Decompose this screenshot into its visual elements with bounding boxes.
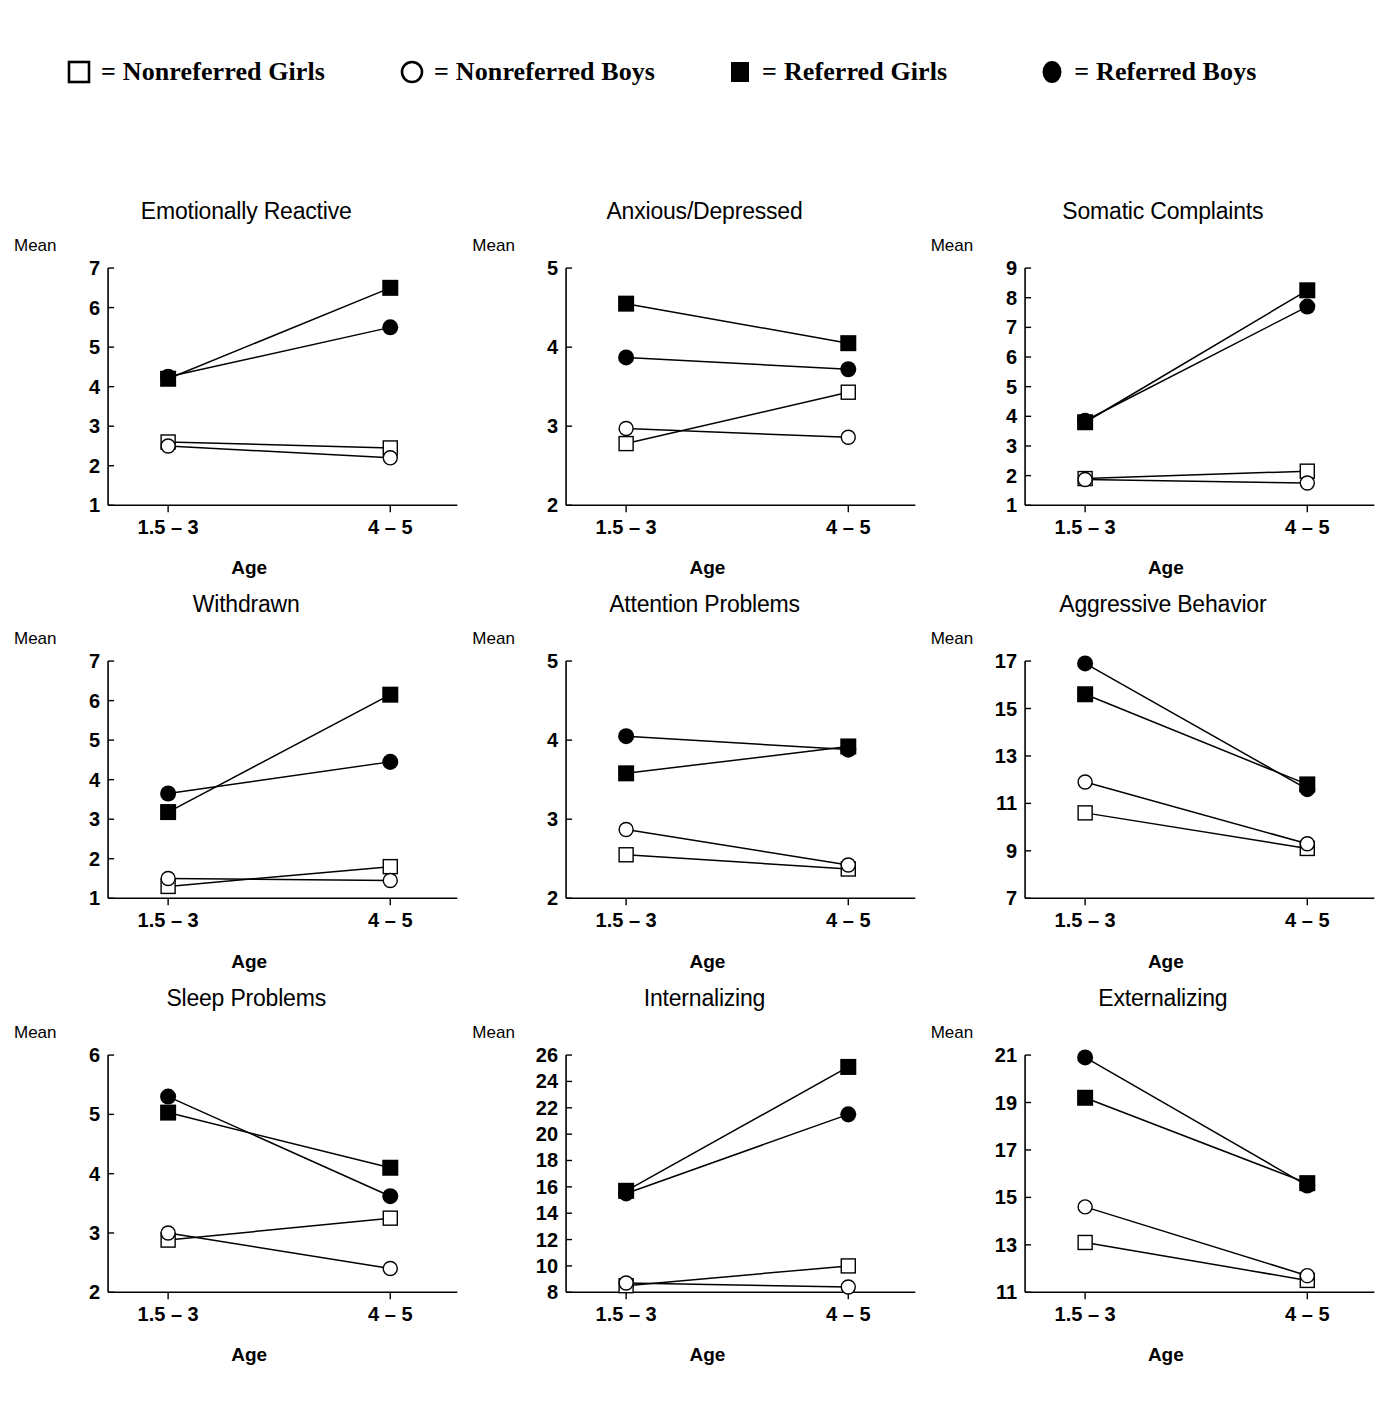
y-tick-label: 16	[536, 1176, 558, 1198]
chart-panel: WithdrawnMeanAge12345671.5 – 34 – 5	[0, 583, 458, 976]
open-square-data-point	[383, 1211, 397, 1225]
x-tick-label: 1.5 – 3	[1054, 516, 1115, 538]
y-tick-label: 8	[1006, 287, 1017, 309]
filled-circle-data-point	[160, 786, 176, 802]
filled-circle-marker-icon	[1039, 59, 1065, 85]
open-square-data-point	[383, 860, 397, 874]
chart-panel: ExternalizingMeanAge1113151719211.5 – 34…	[917, 977, 1375, 1370]
y-tick-label: 24	[536, 1070, 559, 1092]
legend-equals-sign: =	[762, 57, 777, 87]
y-tick-label: 4	[547, 729, 559, 751]
open-circle-data-point	[161, 872, 175, 886]
y-tick-label: 9	[1006, 257, 1017, 279]
y-tick-label: 18	[536, 1149, 558, 1171]
x-tick-label: 4 – 5	[1285, 516, 1329, 538]
y-tick-label: 11	[996, 793, 1017, 815]
series-line	[1085, 307, 1307, 421]
open-square-data-point	[1078, 806, 1092, 820]
y-tick-label: 5	[89, 1103, 100, 1125]
x-tick-label: 1.5 – 3	[138, 1303, 199, 1325]
series-line	[1085, 471, 1307, 478]
series-line	[626, 737, 848, 750]
x-tick-label: 1.5 – 3	[1054, 1303, 1115, 1325]
x-tick-label: 4 – 5	[1285, 910, 1329, 932]
open-square-data-point	[1078, 1235, 1092, 1249]
open-circle-data-point	[161, 439, 175, 453]
plot-area: 23451.5 – 34 – 5	[458, 583, 916, 976]
series-line	[1085, 290, 1307, 422]
series-line	[1085, 1242, 1307, 1280]
y-tick-label: 3	[547, 415, 558, 437]
legend-equals-sign: =	[101, 57, 116, 87]
legend-equals-sign: =	[1074, 57, 1089, 87]
filled-circle-data-point	[160, 1088, 176, 1104]
y-tick-label: 4	[547, 336, 559, 358]
open-circle-data-point	[619, 422, 633, 436]
plot-area: 12345671.5 – 34 – 5	[0, 190, 458, 583]
legend-label: Nonreferred Girls	[123, 59, 325, 85]
filled-circle-data-point	[1299, 299, 1315, 315]
legend-item-nonreferred-girls: = Nonreferred Girls	[66, 57, 325, 87]
open-square-data-point	[842, 385, 856, 399]
chart-panel: Aggressive BehaviorMeanAge79111315171.5 …	[917, 583, 1375, 976]
x-tick-label: 4 – 5	[826, 516, 870, 538]
chart-panel: Somatic ComplaintsMeanAge1234567891.5 – …	[917, 190, 1375, 583]
x-tick-label: 1.5 – 3	[138, 910, 199, 932]
y-tick-label: 2	[89, 1281, 100, 1303]
series-line	[1085, 1207, 1307, 1276]
filled-square-data-point	[1077, 1089, 1093, 1105]
series-line	[626, 357, 848, 369]
series-line	[1085, 782, 1307, 844]
series-line	[1085, 1057, 1307, 1185]
series-line	[626, 747, 848, 774]
legend-label: Nonreferred Boys	[456, 59, 655, 85]
chart-panel: Anxious/DepressedMeanAge23451.5 – 34 – 5	[458, 190, 916, 583]
plot-area: 1234567891.5 – 34 – 5	[917, 190, 1375, 583]
x-tick-label: 1.5 – 3	[1054, 910, 1115, 932]
chart-panel: InternalizingMeanAge81012141618202224261…	[458, 977, 916, 1370]
y-tick-label: 6	[1006, 346, 1017, 368]
x-tick-label: 4 – 5	[1285, 1303, 1329, 1325]
chart-panel-grid: Emotionally ReactiveMeanAge12345671.5 – …	[0, 190, 1375, 1370]
series-line	[168, 762, 390, 794]
y-tick-label: 3	[1006, 435, 1017, 457]
filled-square-data-point	[1299, 282, 1315, 298]
legend-item-referred-boys: = Referred Boys	[1039, 57, 1256, 87]
y-tick-label: 21	[994, 1044, 1016, 1066]
filled-square-data-point	[618, 766, 634, 782]
filled-circle-data-point	[841, 361, 857, 377]
series-line	[1085, 479, 1307, 483]
filled-circle-data-point	[1299, 781, 1315, 797]
x-tick-label: 4 – 5	[368, 910, 412, 932]
filled-square-data-point	[618, 296, 634, 312]
open-square-data-point	[842, 1259, 856, 1273]
series-line	[168, 1112, 390, 1167]
filled-square-marker-icon	[727, 59, 753, 85]
x-tick-label: 1.5 – 3	[596, 516, 657, 538]
filled-square-data-point	[841, 335, 857, 351]
x-tick-label: 4 – 5	[368, 516, 412, 538]
filled-circle-data-point	[382, 1188, 398, 1204]
y-tick-label: 2	[547, 494, 558, 516]
y-tick-label: 3	[89, 809, 100, 831]
legend: = Nonreferred Girls = Nonreferred Boys =…	[0, 44, 1375, 100]
series-line	[626, 855, 848, 869]
y-tick-label: 4	[1006, 405, 1018, 427]
open-circle-data-point	[383, 451, 397, 465]
filled-circle-data-point	[382, 319, 398, 335]
filled-square-data-point	[841, 1059, 857, 1075]
plot-area: 81012141618202224261.5 – 34 – 5	[458, 977, 916, 1370]
y-tick-label: 6	[89, 1044, 100, 1066]
y-tick-label: 15	[994, 698, 1016, 720]
legend-item-referred-girls: = Referred Girls	[727, 57, 947, 87]
series-line	[168, 327, 390, 376]
filled-circle-data-point	[1077, 1049, 1093, 1065]
y-tick-label: 13	[994, 745, 1016, 767]
filled-square-data-point	[382, 687, 398, 703]
y-tick-label: 8	[547, 1281, 558, 1303]
open-circle-data-point	[1078, 775, 1092, 789]
plot-area: 1113151719211.5 – 34 – 5	[917, 977, 1375, 1370]
series-line	[626, 304, 848, 344]
series-line	[168, 1096, 390, 1196]
filled-circle-data-point	[1077, 413, 1093, 429]
